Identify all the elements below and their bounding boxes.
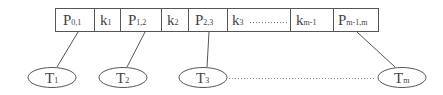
edge-pm-tm bbox=[357, 32, 395, 67]
cell-km-1: km-1 bbox=[296, 12, 316, 28]
cell-k2: k2 bbox=[167, 12, 179, 28]
edge-p01-t1 bbox=[57, 32, 78, 67]
cell-k3: k3 bbox=[232, 12, 244, 28]
edge-p23-t3 bbox=[207, 32, 209, 67]
subtrees bbox=[28, 68, 426, 88]
b-tree-diagram: P0,1 k1 P1,2 k2 P2,3 k3 km-1 Pm-1,m T1 T… bbox=[0, 0, 443, 95]
cell-p23: P2,3 bbox=[195, 12, 213, 28]
edge-p12-t2 bbox=[127, 32, 145, 67]
cell-k1: k1 bbox=[100, 12, 112, 28]
cell-p01: P0,1 bbox=[63, 12, 81, 28]
cell-pm-1m: Pm-1,m bbox=[338, 12, 368, 28]
pointer-edges bbox=[57, 32, 395, 67]
cell-labels: P0,1 k1 P1,2 k2 P2,3 k3 km-1 Pm-1,m bbox=[63, 12, 368, 28]
cell-p12: P1,2 bbox=[128, 12, 146, 28]
